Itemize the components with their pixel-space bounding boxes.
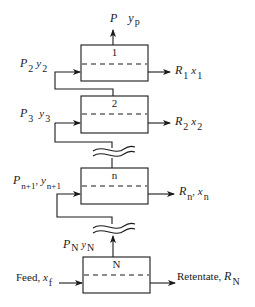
recycle-3-line — [55, 123, 112, 148]
retentate-N-label: Retentate, RN — [177, 270, 240, 282]
stage-1-label: 1 — [81, 47, 148, 58]
permeate-out-label: P yp — [110, 12, 140, 24]
break-symbol-2 — [93, 223, 135, 228]
stage-N-label: N — [83, 259, 150, 270]
feed-label: Feed, xf — [16, 272, 52, 283]
recycle-2-line — [55, 72, 113, 96]
recycle-n1-line — [57, 194, 112, 224]
stage-n-label: n — [81, 170, 148, 181]
recycle-n1-label: Pn+1, yn+1 — [13, 174, 61, 186]
break-symbol-1 — [93, 146, 135, 151]
retentate-2-label: R2 x2 — [175, 115, 202, 127]
recycle-2-label: P2 y2 — [20, 57, 47, 69]
permeate-N-label: PN yN — [63, 238, 94, 250]
retentate-n-label: Rn, xn — [179, 185, 209, 197]
recycle-3-label: P3 y3 — [20, 107, 50, 119]
stage-2-label: 2 — [81, 98, 148, 109]
retentate-1-label: R1 x1 — [175, 64, 202, 76]
